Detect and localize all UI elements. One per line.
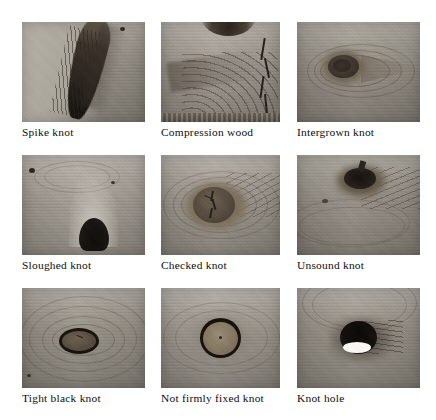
cell-caption: Compression wood	[161, 125, 280, 139]
cell-caption: Knot hole	[297, 391, 420, 405]
knot-core	[344, 168, 376, 189]
cell-caption: Unsound knot	[297, 258, 420, 272]
board-edge-band	[22, 381, 145, 388]
board-edge-band	[161, 250, 280, 255]
cell-caption: Tight black knot	[22, 391, 145, 405]
board-edge-band	[161, 381, 280, 388]
knot-pith	[333, 59, 351, 72]
cell-caption: Checked knot	[161, 258, 280, 272]
figure-cell-tight-black-knot: Tight black knot	[22, 288, 145, 405]
board-edge-band	[22, 248, 145, 255]
photo-sloughed-knot	[22, 155, 145, 255]
wood-fleck	[111, 181, 115, 184]
photo-tight-black-knot	[22, 288, 145, 388]
figure-cell-spike-knot: Spike knot	[22, 22, 145, 139]
photo-spike-knot	[22, 22, 145, 122]
photo-not-firmly-fixed-knot	[161, 288, 280, 388]
wood-defect-figure: Spike knot Compression wood	[0, 0, 436, 420]
photo-unsound-knot	[297, 155, 420, 255]
cell-caption: Sloughed knot	[22, 258, 145, 272]
cell-caption: Not firmly fixed knot	[161, 391, 280, 405]
wood-fleck	[27, 374, 31, 377]
photo-checked-knot	[161, 155, 280, 255]
photo-intergrown-knot	[297, 22, 420, 122]
figure-cell-knot-hole: Knot hole	[297, 288, 420, 405]
cell-caption: Spike knot	[22, 125, 145, 139]
cell-caption: Intergrown knot	[297, 125, 420, 139]
grain-swirl	[299, 207, 404, 245]
figure-cell-checked-knot: Checked knot	[161, 155, 280, 272]
hole-light-highlight	[343, 342, 371, 353]
figure-cell-unsound-knot: Unsound knot	[297, 155, 420, 272]
photo-grid: Spike knot Compression wood	[0, 0, 436, 420]
figure-cell-compression-wood: Compression wood	[161, 22, 280, 139]
photo-knot-hole	[297, 288, 420, 388]
figure-cell-not-firmly-fixed-knot: Not firmly fixed knot	[161, 288, 280, 405]
figure-cell-intergrown-knot: Intergrown knot	[297, 22, 420, 139]
board-edge-band	[297, 381, 420, 388]
board-edge-band	[161, 113, 280, 122]
board-edge-band	[22, 115, 145, 122]
figure-cell-sloughed-knot: Sloughed knot	[22, 155, 145, 272]
wood-fleck	[322, 199, 328, 203]
photo-compression-wood	[161, 22, 280, 122]
